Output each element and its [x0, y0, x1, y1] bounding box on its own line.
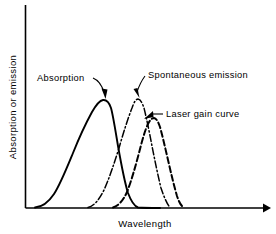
chart-canvas: Absorption Spontaneous emission Laser ga… — [0, 0, 276, 234]
label-absorption: Absorption — [37, 73, 84, 83]
series-absorption-curve — [35, 100, 160, 208]
label-spontaneous-emission: Spontaneous emission — [148, 70, 248, 80]
spontaneous-emission-arrowhead — [134, 88, 140, 98]
absorption-arrowhead — [102, 89, 108, 100]
x-axis-title: Wavelength — [118, 218, 171, 229]
x-axis-arrowhead — [263, 204, 271, 213]
label-laser-gain-curve: Laser gain curve — [166, 109, 240, 119]
figure-container: Absorption Spontaneous emission Laser ga… — [0, 0, 276, 234]
y-axis-title: Absorption or emission — [7, 55, 18, 159]
series-spontaneous-emission-curve — [88, 99, 170, 208]
spontaneous-emission-leader-line — [137, 76, 145, 92]
